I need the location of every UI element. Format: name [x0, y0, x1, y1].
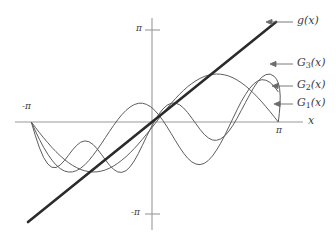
- G2-base: G: [297, 78, 306, 91]
- leader-G2: [272, 83, 293, 88]
- y-axis-tick-label-neg-pi: -π: [131, 208, 140, 217]
- leader-g: [266, 19, 293, 24]
- y-axis-tick-label-pi: π: [136, 24, 142, 33]
- x-axis-tick-label-pi: π: [276, 126, 282, 135]
- x-axis-tick-label-neg-pi: -π: [22, 102, 31, 111]
- callout-leaders: [266, 19, 293, 106]
- G3-arg: (x): [311, 56, 326, 69]
- leader-G3: [270, 61, 293, 66]
- series-label-G1: G1(x): [297, 97, 326, 110]
- plot-canvas: [0, 0, 336, 242]
- series-label-g-text: g(x): [297, 14, 319, 27]
- G1-arg: (x): [311, 96, 326, 109]
- G1-base: G: [297, 96, 306, 109]
- series-label-G2: G2(x): [297, 79, 326, 92]
- G3-base: G: [297, 56, 306, 69]
- curve-G1: [31, 74, 278, 172]
- arrowhead-G1: [274, 101, 280, 106]
- x-axis-label: x: [308, 115, 314, 126]
- series-label-g: g(x): [297, 15, 319, 26]
- series-label-G3: G3(x): [297, 57, 326, 70]
- arrowhead-g: [266, 19, 272, 24]
- curve-G2: [31, 80, 278, 172]
- arrowhead-G3: [270, 61, 276, 66]
- leader-G1: [274, 101, 293, 106]
- G2-arg: (x): [311, 78, 326, 91]
